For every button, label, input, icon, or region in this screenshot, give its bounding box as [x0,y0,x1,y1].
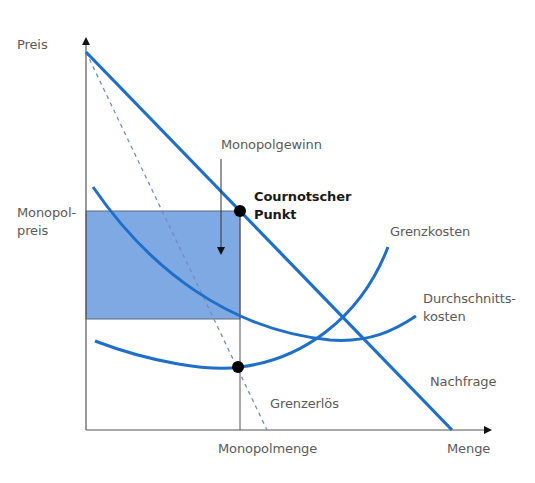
y-axis-label: Preis [17,36,48,53]
cournot-point-label-line1: Cournotscher [254,188,351,205]
monopoly-price-label-line2: preis [17,222,48,239]
monopoly-profit-label: Monopolgewinn [221,136,322,153]
marginal-cost-label: Grenzkosten [390,223,470,240]
monopoly-quantity-label: Monopolmenge [218,440,317,457]
diagram-canvas [0,0,535,483]
y-axis-arrow-icon [82,37,90,45]
average-cost-label-line2: kosten [423,308,466,325]
monopoly-price-label-line1: Monopol- [17,204,76,221]
x-axis-arrow-icon [484,426,492,434]
marginal-revenue-label: Grenzerlös [270,395,339,412]
average-cost-label-line1: Durchschnitts- [423,290,516,307]
monopoly-diagram: Preis Monopol- preis Monopolgewinn Courn… [0,0,535,483]
demand-label: Nachfrage [430,373,496,390]
mc-mr-intersection-point [232,361,244,373]
cournot-point-label-line2: Punkt [254,206,296,223]
cournot-point [234,205,246,217]
x-axis-label: Menge [447,440,490,457]
